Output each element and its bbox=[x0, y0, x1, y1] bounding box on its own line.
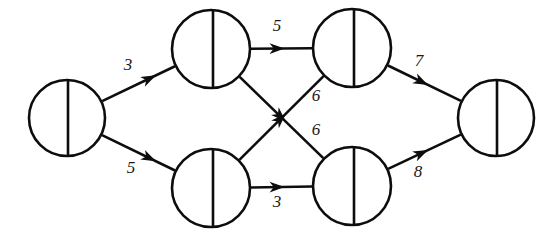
edge-top-right-to-sink-weight-label: 7 bbox=[415, 51, 425, 70]
edge-source-to-bottom-left-line bbox=[102, 135, 175, 170]
node-bottom-right-circle[interactable] bbox=[313, 147, 391, 225]
node-top-right-circle[interactable] bbox=[313, 9, 391, 87]
edge-bottom-left-to-top-right-weight-label: 6 bbox=[312, 86, 321, 105]
edge-source-to-top-left bbox=[102, 66, 175, 101]
edge-source-to-top-left-weight-label: 3 bbox=[123, 55, 133, 74]
edge-bottom-left-to-bottom-right-weight-label: 3 bbox=[272, 192, 282, 211]
edge-source-to-top-left-line bbox=[102, 66, 175, 101]
diagram-canvas: 35566378 bbox=[0, 0, 553, 236]
edge-source-to-bottom-left bbox=[102, 135, 175, 170]
edge-bottom-right-to-sink-weight-label: 8 bbox=[414, 162, 423, 181]
edge-top-left-to-top-right bbox=[251, 43, 312, 54]
edge-source-to-bottom-left-weight-label: 5 bbox=[127, 158, 136, 177]
node-source[interactable] bbox=[29, 80, 105, 156]
flow-network-diagram: 35566378 bbox=[0, 0, 553, 236]
node-bottom-left-circle[interactable] bbox=[172, 149, 250, 227]
node-top-right[interactable] bbox=[313, 9, 391, 87]
edge-top-left-to-top-right-weight-label: 5 bbox=[273, 16, 282, 35]
node-top-left[interactable] bbox=[172, 10, 250, 88]
node-bottom-right[interactable] bbox=[313, 147, 391, 225]
edges-layer bbox=[102, 43, 461, 192]
node-bottom-left[interactable] bbox=[172, 149, 250, 227]
edge-bottom-right-to-sink bbox=[388, 135, 461, 169]
node-sink[interactable] bbox=[458, 80, 534, 156]
edge-bottom-left-to-bottom-right bbox=[251, 182, 312, 193]
edge-top-left-to-bottom-right-weight-label: 6 bbox=[312, 120, 321, 139]
node-top-left-circle[interactable] bbox=[172, 10, 250, 88]
edge-top-right-to-sink bbox=[388, 65, 461, 100]
